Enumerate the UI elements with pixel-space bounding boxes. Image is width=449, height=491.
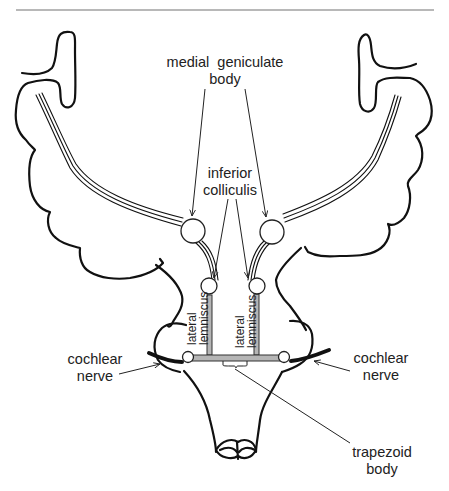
auditory-pathway-diagram: medial geniculate body inferior collicul… [0,0,449,491]
trapezoid-bracket [223,361,247,368]
left-cochlear-nucleus [183,352,194,363]
left-cochlear-nerve [149,353,182,362]
label-lateral-lemniscus-right-line2: lemniscus [245,295,259,348]
left-hemisphere-outline [16,32,186,372]
right-medial-geniculate-body [260,220,284,244]
trapezoid-body-tract [192,355,282,361]
label-cochlear-nerve-right-line1: cochlear [354,350,409,366]
label-lateral-lemniscus-left-line2: lemniscus [197,292,211,345]
label-cochlear-nerve-left-line1: cochlear [68,351,123,367]
left-inferior-colliculis [201,278,217,294]
label-cochlear-nerve-right-line2: nerve [363,367,399,383]
left-medial-geniculate-body [181,219,205,243]
right-auditory-radiation [283,95,401,222]
right-inferior-colliculis [249,278,265,294]
label-cochlear-nerve-left-line2: nerve [77,368,113,384]
right-cochlear-nucleus [279,352,290,363]
label-trapezoid-body-line2: body [366,461,398,477]
label-trapezoid-body-line1: trapezoid [352,444,412,460]
left-auditory-radiation [36,93,183,226]
label-inferior-colliculis-line2: colliculis [203,182,257,198]
right-hemisphere-outline [276,34,432,372]
label-inferior-colliculis-line1: inferior [208,165,252,181]
right-brachium [248,241,270,280]
label-medial-geniculate-line1: medial geniculate [167,54,284,70]
label-medial-geniculate-line2: body [209,71,241,87]
medulla-outline [184,371,282,459]
leader-lines [119,89,350,443]
